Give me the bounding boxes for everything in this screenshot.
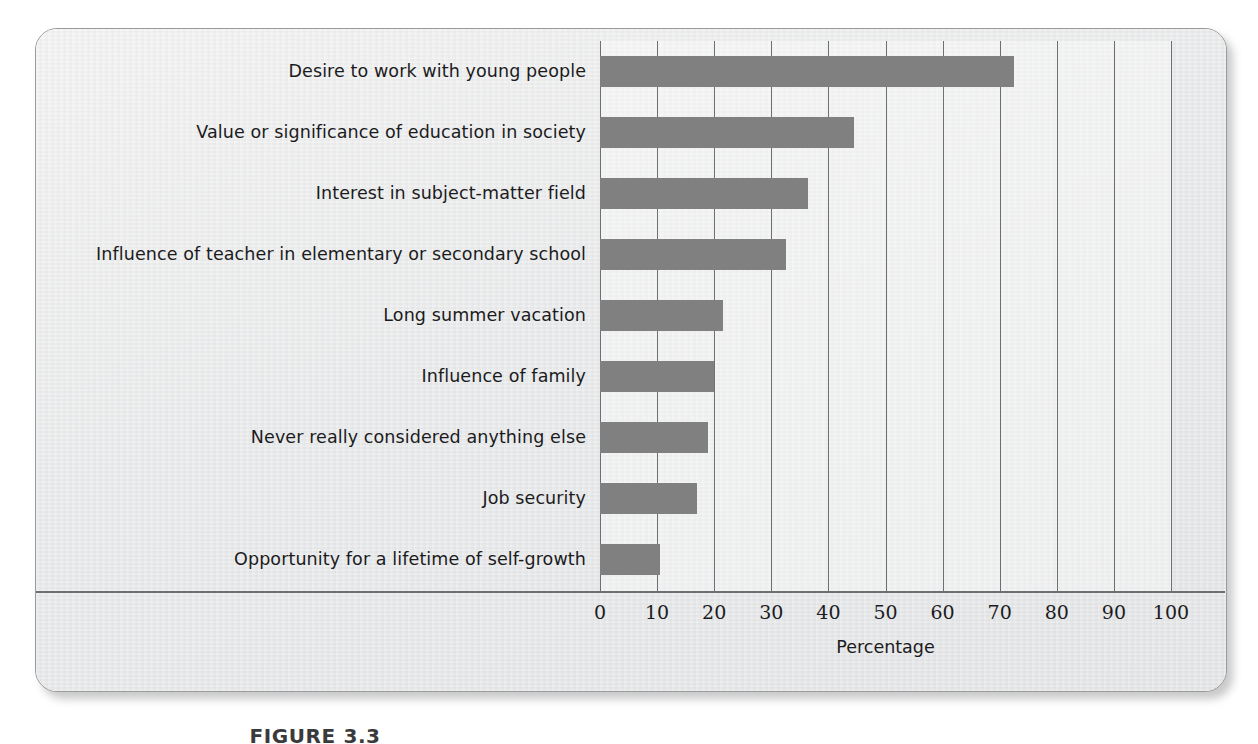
x-axis-tick-label: 100 (1141, 601, 1201, 623)
bar-row: Desire to work with young people (600, 41, 1171, 102)
bar-row: Opportunity for a lifetime of self-growt… (600, 529, 1171, 590)
figure-caption: FIGURE 3.3 (35, 724, 595, 744)
bar-row: Influence of teacher in elementary or se… (600, 224, 1171, 285)
bar-category-label: Influence of teacher in elementary or se… (96, 239, 586, 270)
x-axis-tick-label: 20 (684, 601, 744, 623)
x-axis-tick-label: 40 (798, 601, 858, 623)
bar-category-label: Desire to work with young people (288, 56, 586, 87)
bar-row: Job security (600, 468, 1171, 529)
bar (600, 56, 1014, 87)
bar-category-label: Long summer vacation (383, 300, 586, 331)
bar (600, 117, 854, 148)
x-axis-tick-label: 0 (570, 601, 630, 623)
bar-category-label: Opportunity for a lifetime of self-growt… (234, 544, 586, 575)
x-axis-tick-label: 60 (913, 601, 973, 623)
bar (600, 239, 786, 270)
x-axis-title: Percentage (600, 637, 1171, 657)
gridline (1171, 41, 1172, 591)
x-axis-tick-label: 70 (970, 601, 1030, 623)
x-axis-tick-label: 90 (1084, 601, 1144, 623)
bar (600, 544, 660, 575)
x-axis-tick-label: 30 (741, 601, 801, 623)
bar-row: Value or significance of education in so… (600, 102, 1171, 163)
x-axis-tick-label: 80 (1027, 601, 1087, 623)
bar-category-label: Value or significance of education in so… (196, 117, 586, 148)
x-axis-tick-label: 50 (856, 601, 916, 623)
bar (600, 422, 708, 453)
x-axis-tick-label: 10 (627, 601, 687, 623)
bar-category-label: Influence of family (421, 361, 586, 392)
bar (600, 361, 714, 392)
bar (600, 300, 723, 331)
bar (600, 483, 697, 514)
bar-category-label: Never really considered anything else (251, 422, 586, 453)
bar (600, 178, 808, 209)
x-axis-line (36, 591, 1225, 593)
bar-category-label: Interest in subject-matter field (316, 178, 586, 209)
bar-category-label: Job security (482, 483, 586, 514)
bar-row: Interest in subject-matter field (600, 163, 1171, 224)
figure-panel: Desire to work with young peopleValue or… (35, 28, 1227, 692)
bar-row: Long summer vacation (600, 285, 1171, 346)
bar-row: Influence of family (600, 346, 1171, 407)
bar-row: Never really considered anything else (600, 407, 1171, 468)
bar-chart: Desire to work with young peopleValue or… (36, 29, 1226, 691)
